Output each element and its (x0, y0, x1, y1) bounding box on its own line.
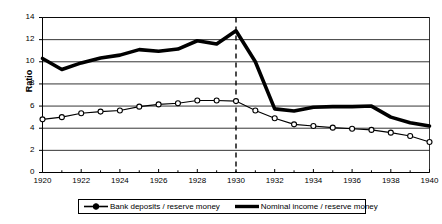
legend-label-nominal-income: Nominal income / reserve money (260, 202, 378, 211)
series-marker-bank-deposits (311, 124, 316, 129)
series-marker-bank-deposits (98, 109, 103, 114)
x-axis-tick-label: 1940 (413, 176, 442, 185)
series-marker-bank-deposits (292, 122, 297, 127)
series-marker-bank-deposits (79, 111, 84, 116)
series-marker-bank-deposits (117, 108, 122, 113)
series-marker-bank-deposits (427, 140, 432, 145)
series-marker-bank-deposits (137, 104, 142, 109)
y-axis-tick-label: 2 (13, 145, 35, 154)
x-axis-tick-label: 1930 (219, 176, 253, 185)
series-marker-bank-deposits (234, 99, 239, 104)
series-marker-bank-deposits (253, 108, 258, 113)
series-marker-bank-deposits (156, 102, 161, 107)
series-marker-bank-deposits (369, 127, 374, 132)
y-axis-tick-label: 10 (13, 56, 35, 65)
y-axis-tick-label: 4 (13, 123, 35, 132)
chart-legend: Bank deposits / reserve money Nominal in… (78, 199, 366, 214)
x-axis-tick-label: 1920 (26, 176, 60, 185)
series-marker-bank-deposits (272, 116, 277, 121)
legend-key-thick-line-icon (234, 201, 260, 212)
legend-label-bank-deposits: Bank deposits / reserve money (109, 202, 220, 211)
x-axis-tick-label: 1932 (258, 176, 292, 185)
series-marker-bank-deposits (59, 115, 64, 120)
series-marker-bank-deposits (350, 126, 355, 131)
legend-item-nominal-income[interactable]: Nominal income / reserve money (220, 200, 378, 213)
x-axis-tick-label: 1938 (374, 176, 408, 185)
series-marker-bank-deposits (214, 98, 219, 103)
legend-item-bank-deposits[interactable]: Bank deposits / reserve money (79, 200, 220, 213)
series-marker-bank-deposits (195, 98, 200, 103)
series-marker-bank-deposits (388, 130, 393, 135)
chart-container: Ratio Bank deposits / reserve money Nomi… (0, 0, 442, 224)
series-marker-bank-deposits (408, 133, 413, 138)
series-marker-bank-deposits (175, 101, 180, 106)
x-axis-tick-label: 1928 (180, 176, 214, 185)
y-axis-tick-label: 14 (13, 12, 35, 21)
x-axis-tick-label: 1924 (103, 176, 137, 185)
series-marker-bank-deposits (40, 117, 45, 122)
y-axis-tick-label: 0 (13, 167, 35, 176)
plot-area (0, 0, 442, 224)
series-marker-bank-deposits (330, 125, 335, 130)
x-axis-tick-label: 1934 (296, 176, 330, 185)
x-axis-tick-label: 1926 (142, 176, 176, 185)
y-axis-tick-label: 12 (13, 34, 35, 43)
legend-key-line-marker-icon (83, 201, 109, 212)
x-axis-tick-label: 1922 (64, 176, 98, 185)
x-axis-tick-label: 1936 (335, 176, 369, 185)
y-axis-tick-label: 6 (13, 101, 35, 110)
y-axis-tick-label: 8 (13, 78, 35, 87)
